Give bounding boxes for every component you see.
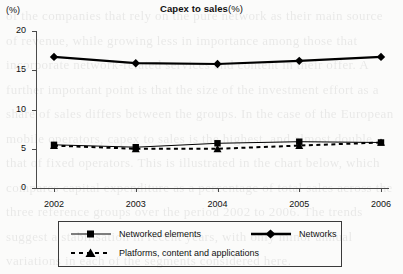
legend-key-triangle-icon [69,247,113,259]
data-point-marker [50,53,58,61]
legend-item-networked-elements[interactable]: Networked elements [69,228,201,240]
x-tick-label: 2005 [289,199,309,209]
y-tick-label: 20 [16,25,26,35]
legend-key-diamond-icon [249,228,293,240]
x-tick-label: 2004 [207,199,227,209]
chart-page: of the companies that rely on the pure n… [0,0,403,274]
legend-label-platforms: Platforms, content and applications [119,248,259,258]
y-tick-label: 0 [21,182,26,192]
legend-item-platforms-content-applications[interactable]: Platforms, content and applications [69,247,259,259]
legend-item-networks[interactable]: Networks [249,228,337,240]
chart-title-main: Capex to sales [160,3,228,14]
data-point-marker [295,57,303,65]
series-networks [50,53,385,68]
chart-title: Capex to sales(%) [0,3,403,14]
y-tick-label: 5 [21,143,26,153]
data-point-marker [132,59,140,67]
x-tick-label: 2006 [371,199,391,209]
data-point-marker [377,53,385,61]
y-tick-label: 15 [16,64,26,74]
x-tick-label: 2003 [126,199,146,209]
plot-area: 05101520 20022003200420052006 [36,31,388,188]
legend: Networked elements Networks Platforms, c… [58,221,342,267]
y-tick-label: 10 [16,104,26,114]
legend-label-networked-elements: Networked elements [119,229,201,239]
series-layer [36,31,389,189]
legend-label-networks: Networks [299,229,337,239]
x-tick-label: 2002 [44,199,64,209]
chart-title-unit: (%) [228,3,243,14]
legend-key-square-icon [69,228,113,240]
data-point-marker [213,60,221,68]
